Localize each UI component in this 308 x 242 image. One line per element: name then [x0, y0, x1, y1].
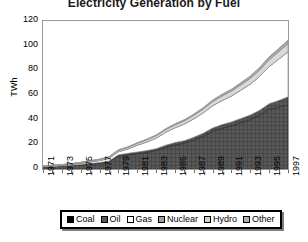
x-tick-mark — [62, 170, 63, 173]
x-tick-mark — [184, 170, 185, 173]
x-tick-mark — [269, 170, 270, 173]
plot-area — [42, 20, 289, 170]
x-tick-mark — [81, 170, 82, 173]
legend-item-hydro[interactable]: Hydro — [204, 215, 237, 224]
x-tick-mark — [118, 170, 119, 173]
x-tick-mark — [109, 170, 110, 173]
y-tick-label: 100 — [8, 40, 38, 49]
chart-title: Electricity Generation by Fuel — [0, 0, 308, 10]
chart-container: Electricity Generation by Fuel TWh 02040… — [0, 0, 308, 242]
legend-label: Coal — [76, 215, 95, 224]
x-tick-mark — [166, 170, 167, 173]
y-tick-label: 60 — [8, 89, 38, 98]
x-tick-mark — [90, 170, 91, 173]
legend-swatch-icon — [158, 216, 165, 223]
legend-swatch-icon — [243, 216, 250, 223]
legend-swatch-icon — [204, 216, 211, 223]
x-tick-mark — [52, 170, 53, 173]
y-tick-label: 20 — [8, 138, 38, 147]
x-tick-mark — [250, 170, 251, 173]
legend-label: Gas — [136, 215, 153, 224]
x-tick-mark — [156, 170, 157, 173]
x-tick-mark — [203, 170, 204, 173]
legend-label: Hydro — [213, 215, 237, 224]
x-tick-mark — [260, 170, 261, 173]
chart-legend: CoalOilGasNuclearHydroOther — [60, 210, 282, 229]
x-tick-mark — [241, 170, 242, 173]
legend-item-gas[interactable]: Gas — [127, 215, 153, 224]
legend-label: Oil — [110, 215, 121, 224]
y-tick-label: 120 — [8, 15, 38, 24]
legend-swatch-icon — [67, 216, 74, 223]
x-tick-mark — [279, 170, 280, 173]
legend-item-other[interactable]: Other — [243, 215, 275, 224]
legend-label: Nuclear — [167, 215, 198, 224]
x-tick-mark — [175, 170, 176, 173]
x-tick-mark — [100, 170, 101, 173]
legend-item-coal[interactable]: Coal — [67, 215, 95, 224]
x-tick-mark — [288, 170, 289, 173]
x-tick-mark — [231, 170, 232, 173]
x-tick-mark — [128, 170, 129, 173]
x-tick-mark — [222, 170, 223, 173]
y-tick-label: 40 — [8, 114, 38, 123]
x-tick-mark — [71, 170, 72, 173]
legend-item-nuclear[interactable]: Nuclear — [158, 215, 198, 224]
x-tick-mark — [147, 170, 148, 173]
x-tick-mark — [194, 170, 195, 173]
x-tick-mark — [137, 170, 138, 173]
x-tick-mark — [213, 170, 214, 173]
series-layers — [43, 40, 288, 169]
legend-item-oil[interactable]: Oil — [101, 215, 121, 224]
area-chart-svg — [43, 21, 288, 169]
x-tick-label: 1997 — [292, 156, 301, 176]
legend-label: Other — [252, 215, 275, 224]
y-tick-label: 80 — [8, 64, 38, 73]
legend-swatch-icon — [127, 216, 134, 223]
legend-swatch-icon — [101, 216, 108, 223]
x-tick-mark — [43, 170, 44, 173]
